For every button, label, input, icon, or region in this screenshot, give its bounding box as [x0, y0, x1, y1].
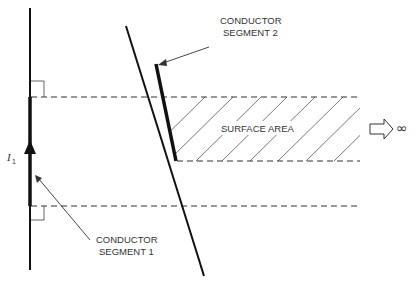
arrowhead-icon: [158, 59, 167, 66]
conductor-segment-1-label-line2: SEGMENT 1: [99, 246, 154, 257]
leader-arrow-segment-1: [35, 175, 90, 240]
conductor-segment-2-thick: [156, 64, 176, 161]
right-angle-marker-lower: [31, 206, 44, 220]
conductor-surface-area-diagram: CONDUCTOR SEGMENT 2 CONDUCTOR SEGMENT 1 …: [0, 0, 418, 283]
conductor-segment-1-label-line1: CONDUCTOR: [96, 234, 158, 245]
leader-arrow-segment-2: [158, 47, 209, 66]
conductor-segment-2-label-line2: SEGMENT 2: [223, 27, 278, 38]
current-label-subscript: 1: [12, 158, 16, 165]
dashed-lines: [31, 97, 360, 206]
surface-area-label: SURFACE AREA: [221, 123, 295, 134]
hollow-arrow-right-icon: [370, 119, 393, 139]
conductor-segment-2-label-line1: CONDUCTOR: [220, 15, 282, 26]
arrow-up-icon: [24, 140, 36, 154]
infinity-symbol: ∞: [396, 120, 408, 136]
right-angle-marker-upper: [31, 81, 44, 97]
